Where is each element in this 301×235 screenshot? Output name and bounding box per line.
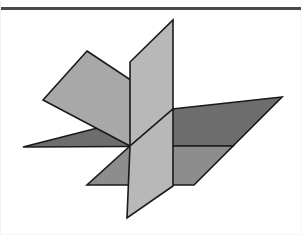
page-root [0,0,301,235]
intersecting-planes-diagram [1,0,301,235]
figure-container [1,0,301,235]
